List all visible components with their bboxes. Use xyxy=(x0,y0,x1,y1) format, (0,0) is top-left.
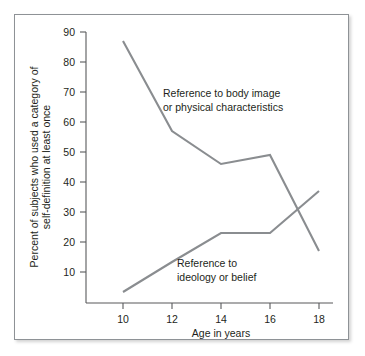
x-tick-label-10: 10 xyxy=(117,313,129,325)
x-tick-label-14: 14 xyxy=(215,313,227,325)
y-axis-tick-labels: 90 80 70 60 50 40 30 20 10 xyxy=(63,26,75,278)
y-axis-ticks xyxy=(80,32,86,272)
x-tick-label-16: 16 xyxy=(264,313,276,325)
annotation-body-image-line2: or physical characteristics xyxy=(163,101,283,113)
y-tick-label-50: 50 xyxy=(63,146,75,158)
line-chart: 90 80 70 60 50 40 30 20 10 10 12 14 16 1… xyxy=(15,15,348,339)
y-tick-label-90: 90 xyxy=(63,26,75,38)
y-tick-label-20: 20 xyxy=(63,236,75,248)
y-tick-label-30: 30 xyxy=(63,206,75,218)
annotation-body-image-line1: Reference to body image xyxy=(163,87,280,99)
y-tick-label-10: 10 xyxy=(63,266,75,278)
y-axis-title-line1: Percent of subjects who used a category … xyxy=(28,67,40,268)
y-tick-label-70: 70 xyxy=(63,86,75,98)
x-axis-tick-labels: 10 12 14 16 18 xyxy=(117,313,325,325)
annotation-ideology-line2: ideology or belief xyxy=(177,271,256,283)
annotation-ideology-line1: Reference to xyxy=(177,257,237,269)
y-axis-title-line2: self-definition at least once xyxy=(40,105,52,229)
y-tick-label-80: 80 xyxy=(63,56,75,68)
y-tick-label-40: 40 xyxy=(63,176,75,188)
annotation-body-image: Reference to body image or physical char… xyxy=(163,87,283,113)
x-axis-title: Age in years xyxy=(192,327,250,339)
annotation-ideology: Reference to ideology or belief xyxy=(177,257,256,283)
series-line-body-image xyxy=(123,41,319,251)
x-axis-ticks xyxy=(123,303,319,309)
x-tick-label-12: 12 xyxy=(166,313,178,325)
figure-frame: 90 80 70 60 50 40 30 20 10 10 12 14 16 1… xyxy=(14,14,349,340)
x-tick-label-18: 18 xyxy=(313,313,325,325)
y-tick-label-60: 60 xyxy=(63,116,75,128)
